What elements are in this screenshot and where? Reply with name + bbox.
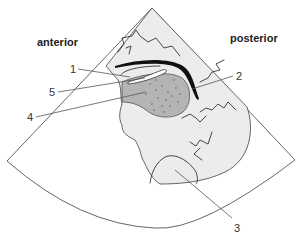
speckle — [167, 91, 168, 92]
speckle — [171, 95, 172, 96]
ultrasound-diagram: anterior posterior 1 2 3 4 5 — [0, 0, 300, 241]
speckle — [161, 105, 162, 106]
speckle — [157, 97, 158, 98]
speckle — [173, 79, 174, 80]
callout-3: 3 — [234, 222, 240, 234]
speckle — [153, 109, 154, 110]
speckle — [179, 93, 180, 94]
callout-4: 4 — [27, 111, 33, 123]
speckle — [155, 89, 156, 90]
speckle — [175, 87, 176, 88]
callout-1: 1 — [70, 63, 76, 75]
speckle — [151, 103, 152, 104]
speckle — [163, 111, 164, 112]
speckle — [161, 85, 162, 86]
speckle — [145, 93, 146, 94]
speckle — [165, 99, 166, 100]
anterior-label: anterior — [37, 36, 79, 48]
speckle — [177, 101, 178, 102]
posterior-label: posterior — [230, 32, 278, 44]
speckle — [149, 83, 150, 84]
speckle — [155, 79, 156, 80]
callout-2: 2 — [236, 70, 242, 82]
callout-5: 5 — [49, 86, 55, 98]
speckle — [169, 105, 170, 106]
